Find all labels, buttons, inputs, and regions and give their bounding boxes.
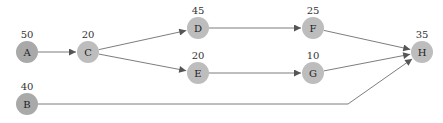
edge-f-h	[324, 30, 411, 49]
node-label: G	[309, 68, 317, 79]
edge-g-h	[324, 54, 410, 71]
node-weight: 10	[307, 50, 320, 61]
node-b: B40	[16, 81, 38, 115]
node-d: D45	[187, 5, 209, 39]
node-a: A50	[16, 29, 38, 63]
node-weight: 50	[21, 29, 34, 40]
node-e: E20	[187, 50, 209, 84]
node-label: A	[22, 47, 31, 58]
node-label: E	[194, 68, 201, 79]
node-label: D	[194, 23, 202, 34]
node-c: C20	[77, 29, 99, 63]
node-weight: 20	[192, 50, 205, 61]
node-weight: 45	[192, 5, 205, 16]
network-diagram: A50B40C20D45E20F25G10H35	[0, 0, 443, 123]
graph-canvas: A50B40C20D45E20F25G10H35	[0, 0, 443, 123]
node-h: H35	[411, 29, 433, 63]
edge-c-e	[99, 54, 186, 71]
node-label: F	[310, 23, 317, 34]
node-label: B	[23, 99, 30, 110]
node-label: H	[418, 47, 427, 58]
nodes-layer: A50B40C20D45E20F25G10H35	[16, 5, 433, 115]
node-label: C	[84, 47, 92, 58]
node-f: F25	[302, 5, 324, 39]
node-weight: 35	[416, 29, 429, 40]
node-g: G10	[302, 50, 324, 84]
node-weight: 40	[21, 81, 34, 92]
edge-b-h	[38, 59, 412, 104]
edge-c-d	[99, 31, 187, 50]
node-weight: 20	[82, 29, 95, 40]
node-weight: 25	[307, 5, 320, 16]
